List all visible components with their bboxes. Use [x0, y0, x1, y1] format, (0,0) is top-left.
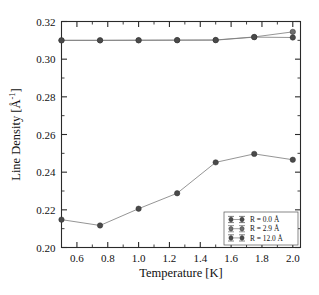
data-point: [174, 191, 179, 196]
data-point: [59, 38, 64, 43]
data-point: [252, 34, 257, 39]
legend-label: R = 0.0 Å: [250, 215, 280, 224]
legend-marker: [240, 217, 244, 221]
x-tick-label: 0.6: [70, 252, 84, 264]
x-tick-label: 1.4: [193, 252, 207, 264]
data-point: [97, 38, 102, 43]
data-point: [290, 157, 295, 162]
legend-marker: [229, 217, 233, 221]
chart-figure: 0.200.220.240.260.280.300.32 0.60.81.01.…: [0, 0, 319, 295]
legend-marker: [240, 227, 244, 231]
y-tick-label: 0.30: [36, 53, 56, 65]
data-point: [290, 29, 295, 34]
data-point: [97, 223, 102, 228]
data-point: [213, 160, 218, 165]
legend-label: R = 12.0 Å: [250, 234, 284, 243]
legend-marker: [229, 227, 233, 231]
y-tick-label: 0.24: [36, 166, 56, 178]
chart-legend: R = 0.0 ÅR = 2.9 ÅR = 12.0 Å: [224, 212, 298, 245]
data-point: [59, 217, 64, 222]
legend-label: R = 2.9 Å: [250, 224, 280, 233]
legend-marker: [229, 236, 233, 240]
line-chart: 0.200.220.240.260.280.300.32 0.60.81.01.…: [0, 0, 319, 295]
x-axis-title: Temperature [K]: [139, 266, 222, 280]
data-point: [136, 206, 141, 211]
y-axis-title-text: Line Density [Å-1]: [7, 88, 23, 181]
data-point: [174, 37, 179, 42]
y-axis-title: Line Density [Å-1]: [7, 88, 23, 181]
data-point: [290, 35, 295, 40]
data-point: [136, 38, 141, 43]
x-tick-label: 1.0: [132, 252, 146, 264]
x-tick-label: 2.0: [286, 252, 300, 264]
x-tick-label: 1.8: [255, 252, 269, 264]
y-tick-label: 0.32: [36, 16, 55, 28]
y-tick-label: 0.26: [36, 129, 56, 141]
y-tick-label: 0.28: [36, 91, 56, 103]
x-tick-label: 0.8: [101, 252, 115, 264]
x-tick-label: 1.6: [224, 252, 238, 264]
y-tick-label: 0.22: [36, 204, 55, 216]
data-point: [213, 37, 218, 42]
x-tick-label: 1.2: [163, 252, 177, 264]
y-tick-label: 0.20: [36, 242, 56, 254]
legend-marker: [240, 236, 244, 240]
data-point: [252, 151, 257, 156]
